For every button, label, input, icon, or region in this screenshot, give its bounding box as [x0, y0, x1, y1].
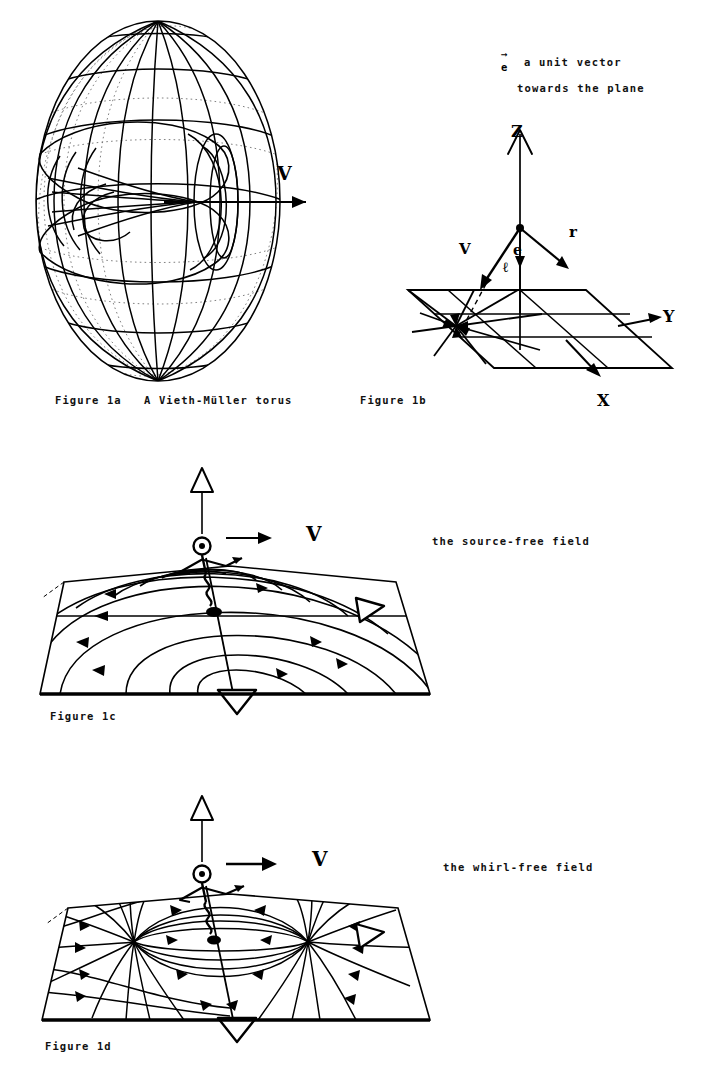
whirl-free-field-svg — [30, 792, 450, 1062]
figure-1d-caption: Figure 1d — [45, 1040, 112, 1052]
figure-1b-caption: Figure 1b — [360, 394, 427, 406]
observer-left-arm — [180, 887, 203, 902]
source-free-field-svg — [30, 462, 450, 722]
figure-1a-graphic — [18, 6, 348, 386]
figure-page: V Figure 1a A Vieth-Müller torus → e a u… — [0, 0, 711, 1079]
coordinate-frame-svg — [390, 118, 690, 388]
fig1c-vertical-axis — [191, 468, 256, 714]
fig1c-flow-arrowheads — [76, 583, 348, 679]
figure-1b-length-l-label: ℓ — [503, 259, 508, 276]
vector-r — [520, 228, 569, 269]
vector-v — [480, 228, 520, 290]
figure-1b-vector-r-label: r — [569, 223, 577, 241]
plane-convergence-rays — [408, 290, 542, 364]
unit-vector-symbol: → e — [501, 56, 507, 75]
figure-1d-field-label: the whirl-free field — [443, 861, 593, 873]
observer-eye — [199, 543, 205, 549]
unit-vector-note-line-2: towards the plane — [517, 82, 645, 94]
observer-foot — [207, 936, 221, 945]
fig1d-observer — [180, 866, 244, 945]
fig1c-streamlines — [42, 569, 430, 694]
figure-1b-axis-x-label: X — [597, 391, 609, 410]
figure-1c-caption: Figure 1c — [50, 710, 117, 722]
vector-arrow-icon: → — [501, 49, 508, 60]
unit-vector-note-line-1: a unit vector — [524, 56, 622, 68]
torus-svg — [18, 6, 348, 386]
fig1d-vertical-axis — [191, 796, 256, 1042]
observer-body — [202, 883, 206, 902]
figure-1a-vector-label: V — [277, 162, 292, 184]
fig1c-ground-plane — [40, 566, 430, 694]
fig1d-streamlines — [42, 888, 428, 1020]
figure-1b-vector-e-label: e — [513, 242, 522, 258]
figure-1c-vector-label: V — [306, 522, 322, 546]
figure-1d-vector-label: V — [312, 847, 328, 871]
figure-1b-axis-z-label: Z — [511, 122, 523, 141]
figure-1c-field-label: the source-free field — [432, 535, 590, 547]
ground-plane — [408, 290, 672, 368]
fig1c-velocity-arrow — [226, 532, 272, 544]
figure-1b-vector-v-label: V — [459, 240, 471, 258]
axis-up-arrowhead — [191, 796, 213, 820]
fig1c-plane-direction-arrowhead — [356, 598, 384, 622]
fig1d-velocity-arrow — [226, 857, 277, 871]
axis-up-arrowhead — [191, 468, 213, 492]
unit-vector-e-label: e — [501, 61, 507, 73]
figure-1a-caption: Figure 1a A Vieth-Müller torus — [55, 394, 293, 406]
figure-1b-axis-y-label: Y — [663, 307, 674, 326]
figure-1c-graphic — [30, 462, 450, 722]
figure-1b-graphic — [390, 118, 690, 388]
observer-foot — [206, 607, 222, 617]
observer-eye — [199, 871, 205, 877]
figure-1d-graphic — [30, 792, 450, 1062]
fig1d-plane-direction-arrowhead — [356, 924, 384, 948]
y-axis — [618, 313, 662, 326]
